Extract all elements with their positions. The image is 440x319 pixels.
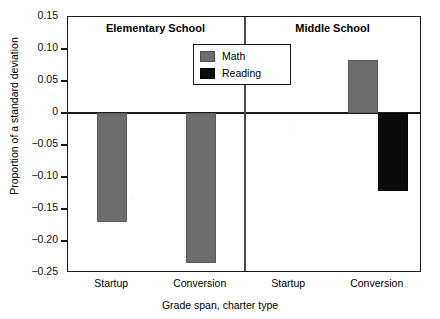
legend-item-reading[interactable]: Reading (200, 66, 284, 80)
legend-swatch-math-icon (200, 51, 215, 62)
x-axis-tick-label: Conversion (350, 277, 403, 289)
y-axis-tick-label: 0.05 (14, 73, 58, 85)
bar-middle-school-conversion-math (348, 60, 378, 113)
y-axis-tick-label: 0.15 (14, 9, 58, 21)
y-axis-tick-label: −0.10 (14, 169, 58, 181)
bar-middle-school-conversion-reading (378, 113, 408, 191)
y-axis-tick-label: −0.15 (14, 201, 58, 213)
panel-title-elementary-school: Elementary School (67, 22, 244, 34)
x-axis-tick-label: Conversion (173, 277, 226, 289)
y-axis-tick (61, 112, 68, 113)
legend-swatch-reading-icon (200, 68, 215, 79)
y-axis-tick (61, 208, 68, 209)
y-axis-tick-label: −0.20 (14, 233, 58, 245)
bar-elementary-school-conversion-math (186, 113, 216, 263)
x-axis-title: Grade span, charter type (0, 299, 440, 311)
legend-label-reading: Reading (222, 68, 261, 79)
y-axis-tick-label: −0.25 (14, 265, 58, 277)
bar-chart: 0.150.100.050−0.05−0.10−0.15−0.20−0.25 P… (0, 0, 440, 319)
panel-title-middle-school: Middle School (244, 22, 421, 34)
legend-label-math: Math (222, 51, 245, 62)
y-axis-tick (61, 240, 68, 241)
y-axis-tick (61, 176, 68, 177)
y-axis-tick (61, 48, 68, 49)
y-axis-tick-label: 0 (14, 105, 58, 117)
legend: Math Reading (193, 44, 291, 85)
y-axis-tick-label: 0.10 (14, 41, 58, 53)
x-axis-tick-label: Startup (94, 277, 128, 289)
y-axis-tick-label: −0.05 (14, 137, 58, 149)
bar-elementary-school-startup-math (97, 113, 127, 222)
y-axis-title: Proportion of a standard deviation (8, 26, 20, 206)
y-axis-tick (61, 80, 68, 81)
legend-item-math[interactable]: Math (200, 49, 284, 63)
y-axis-tick (61, 144, 68, 145)
x-axis-tick-label: Startup (271, 277, 305, 289)
